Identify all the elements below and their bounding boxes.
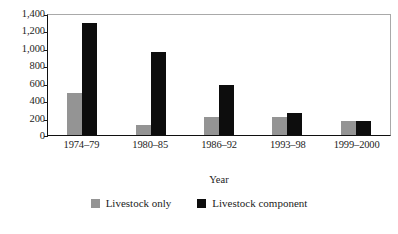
bar-livestock-only bbox=[204, 117, 219, 135]
y-tick-label: 600 bbox=[3, 79, 45, 89]
bar-livestock-component bbox=[287, 113, 302, 135]
y-tick-label: 1,000 bbox=[3, 44, 45, 54]
bar-livestock-only bbox=[341, 121, 356, 135]
y-axis-labels: 1,400 1,200 1,000 800 600 400 200 0 bbox=[0, 0, 45, 160]
bar-livestock-component bbox=[219, 85, 234, 135]
x-tick-label: 1980–85 bbox=[116, 139, 185, 151]
bar-group bbox=[322, 15, 390, 135]
y-tick-label: 800 bbox=[3, 61, 45, 71]
y-tick-mark bbox=[44, 136, 48, 137]
bar-group bbox=[185, 15, 253, 135]
x-tick-label: 1993–98 bbox=[253, 139, 322, 151]
bars-container bbox=[48, 15, 390, 135]
y-tick-label: 1,400 bbox=[3, 9, 45, 19]
axes-frame bbox=[47, 14, 391, 136]
x-tick-label: 1999–2000 bbox=[322, 139, 391, 151]
bar-livestock-component bbox=[82, 23, 97, 135]
y-tick-label: 200 bbox=[3, 114, 45, 124]
legend-swatch-icon bbox=[91, 199, 100, 208]
legend-label: Livestock only bbox=[106, 197, 172, 209]
plot-area: 1,400 1,200 1,000 800 600 400 200 0 bbox=[0, 0, 398, 160]
bar-livestock-component bbox=[151, 52, 166, 135]
legend-label: Livestock component bbox=[212, 197, 307, 209]
y-tick-label: 400 bbox=[3, 96, 45, 106]
legend-item-livestock-component: Livestock component bbox=[197, 197, 307, 209]
bar-chart-figure: 1,400 1,200 1,000 800 600 400 200 0 bbox=[0, 0, 398, 234]
bar-livestock-only bbox=[136, 125, 151, 135]
bar-group bbox=[48, 15, 116, 135]
x-tick-label: 1974–79 bbox=[47, 139, 116, 151]
x-axis-labels: 1974–79 1980–85 1986–92 1993–98 1999–200… bbox=[47, 139, 391, 151]
y-tick-label: 1,200 bbox=[3, 26, 45, 36]
legend-swatch-icon bbox=[197, 199, 206, 208]
bar-livestock-only bbox=[67, 93, 82, 135]
bar-group bbox=[116, 15, 184, 135]
legend-item-livestock-only: Livestock only bbox=[91, 197, 172, 209]
bar-livestock-only bbox=[272, 117, 287, 135]
x-axis-title: Year bbox=[47, 174, 391, 186]
bar-livestock-component bbox=[356, 121, 371, 135]
y-tick-label: 0 bbox=[3, 131, 45, 141]
chart-legend: Livestock only Livestock component bbox=[0, 197, 398, 209]
bar-group bbox=[253, 15, 321, 135]
x-tick-label: 1986–92 bbox=[185, 139, 254, 151]
